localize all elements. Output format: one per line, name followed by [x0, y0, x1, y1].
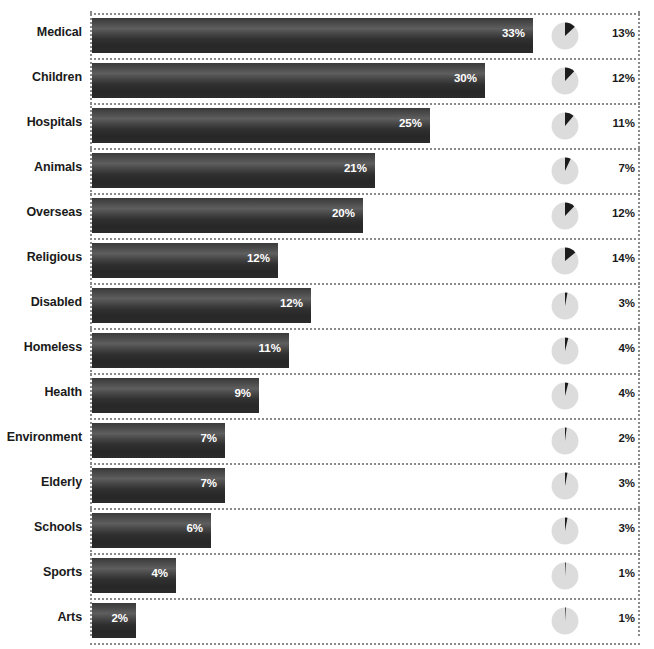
- chart-row: Disabled12%3%: [0, 283, 654, 328]
- category-label: Sports: [0, 565, 82, 579]
- bar-value-label: 7%: [187, 432, 217, 444]
- row-divider: [90, 238, 640, 240]
- chart-row: Health9%4%: [0, 373, 654, 418]
- chart-row: Hospitals25%11%: [0, 103, 654, 148]
- bar-value-label: 2%: [98, 612, 128, 624]
- bar-value-label: 25%: [392, 117, 422, 129]
- chart-row: Medical33%13%: [0, 13, 654, 58]
- chart-row: Arts2%1%: [0, 598, 654, 643]
- pie-value-label: 14%: [601, 252, 635, 264]
- pie-chart: [551, 562, 579, 590]
- bar: [92, 153, 375, 188]
- chart-row: Schools6%3%: [0, 508, 654, 553]
- row-divider: [90, 58, 640, 60]
- pie-value-label: 4%: [601, 387, 635, 399]
- row-divider: [90, 643, 640, 645]
- pie-chart: [551, 472, 579, 500]
- row-divider: [90, 598, 640, 600]
- bar-value-label: 12%: [273, 297, 303, 309]
- pie-chart: [551, 157, 579, 185]
- pie-chart: [551, 337, 579, 365]
- pie-value-label: 11%: [601, 117, 635, 129]
- category-label: Religious: [0, 250, 82, 264]
- category-label: Arts: [0, 610, 82, 624]
- category-label: Hospitals: [0, 115, 82, 129]
- category-label: Medical: [0, 25, 82, 39]
- bar-value-label: 30%: [447, 72, 477, 84]
- pie-chart: [551, 22, 579, 50]
- chart-row: Animals21%7%: [0, 148, 654, 193]
- row-divider: [90, 148, 640, 150]
- chart-row: Sports4%1%: [0, 553, 654, 598]
- pie-chart: [551, 292, 579, 320]
- bar-value-label: 12%: [240, 252, 270, 264]
- category-label: Homeless: [0, 340, 82, 354]
- row-divider: [90, 553, 640, 555]
- category-label: Disabled: [0, 295, 82, 309]
- pie-value-label: 13%: [601, 27, 635, 39]
- chart-row: Children30%12%: [0, 58, 654, 103]
- category-label: Animals: [0, 160, 82, 174]
- row-divider: [90, 283, 640, 285]
- pie-value-label: 7%: [601, 162, 635, 174]
- chart-title: [0, 0, 654, 3]
- pie-chart: [551, 607, 579, 635]
- bar-value-label: 4%: [138, 567, 168, 579]
- pie-chart: [551, 112, 579, 140]
- pie-value-label: 1%: [601, 612, 635, 624]
- pie-chart: [551, 517, 579, 545]
- bar-value-label: 11%: [251, 342, 281, 354]
- category-label: Schools: [0, 520, 82, 534]
- chart-row: Elderly7%3%: [0, 463, 654, 508]
- pie-chart: [551, 382, 579, 410]
- row-divider: [90, 508, 640, 510]
- row-divider: [90, 103, 640, 105]
- bar: [92, 198, 363, 233]
- row-divider: [90, 193, 640, 195]
- chart-row: Homeless11%4%: [0, 328, 654, 373]
- category-label: Elderly: [0, 475, 82, 489]
- pie-value-label: 3%: [601, 522, 635, 534]
- row-divider: [90, 328, 640, 330]
- pie-value-label: 2%: [601, 432, 635, 444]
- row-divider: [90, 373, 640, 375]
- bar-value-label: 33%: [495, 27, 525, 39]
- pie-value-label: 12%: [601, 207, 635, 219]
- row-divider: [90, 13, 640, 15]
- row-divider: [90, 463, 640, 465]
- pie-value-label: 1%: [601, 567, 635, 579]
- pie-value-label: 3%: [601, 477, 635, 489]
- category-label: Environment: [0, 430, 82, 444]
- bar: [92, 63, 485, 98]
- bar: [92, 18, 533, 53]
- bar-value-label: 7%: [187, 477, 217, 489]
- bar-value-label: 21%: [337, 162, 367, 174]
- bar-chart: Medical33%13%Children30%12%Hospitals25%1…: [0, 0, 654, 649]
- chart-row: Overseas20%12%: [0, 193, 654, 238]
- chart-row: Religious12%14%: [0, 238, 654, 283]
- row-divider: [90, 418, 640, 420]
- bar: [92, 108, 430, 143]
- chart-row: Environment7%2%: [0, 418, 654, 463]
- pie-chart: [551, 67, 579, 95]
- bar-value-label: 20%: [325, 207, 355, 219]
- pie-value-label: 12%: [601, 72, 635, 84]
- category-label: Health: [0, 385, 82, 399]
- category-label: Overseas: [0, 205, 82, 219]
- category-label: Children: [0, 70, 82, 84]
- bar-value-label: 6%: [173, 522, 203, 534]
- pie-chart: [551, 247, 579, 275]
- bar-value-label: 9%: [221, 387, 251, 399]
- pie-chart: [551, 202, 579, 230]
- pie-chart: [551, 427, 579, 455]
- pie-value-label: 4%: [601, 342, 635, 354]
- pie-value-label: 3%: [601, 297, 635, 309]
